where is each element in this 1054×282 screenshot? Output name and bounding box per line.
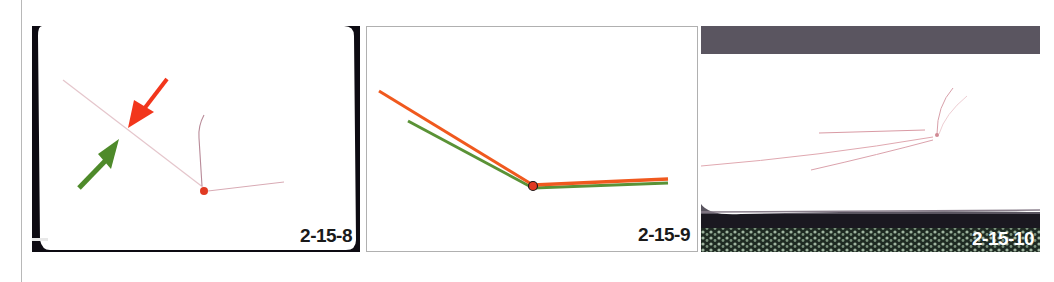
panel-label: 2-15-10	[972, 229, 1034, 248]
figure-panel-2-15-8: 2-15-8	[32, 26, 360, 252]
diagram-bent-lines	[367, 27, 698, 252]
photo-fanning-scratches	[701, 26, 1040, 252]
junction-dot-icon	[200, 187, 208, 195]
panel-label: 2-15-9	[638, 225, 690, 244]
junction-dot-icon	[529, 182, 538, 191]
panel-label: 2-15-8	[300, 226, 352, 245]
figure-panel-2-15-9: 2-15-9	[366, 26, 698, 252]
figure-panel-2-15-10: 2-15-10	[701, 26, 1040, 252]
photo-scratch-arrows	[32, 26, 360, 252]
margin-rule	[21, 0, 22, 282]
